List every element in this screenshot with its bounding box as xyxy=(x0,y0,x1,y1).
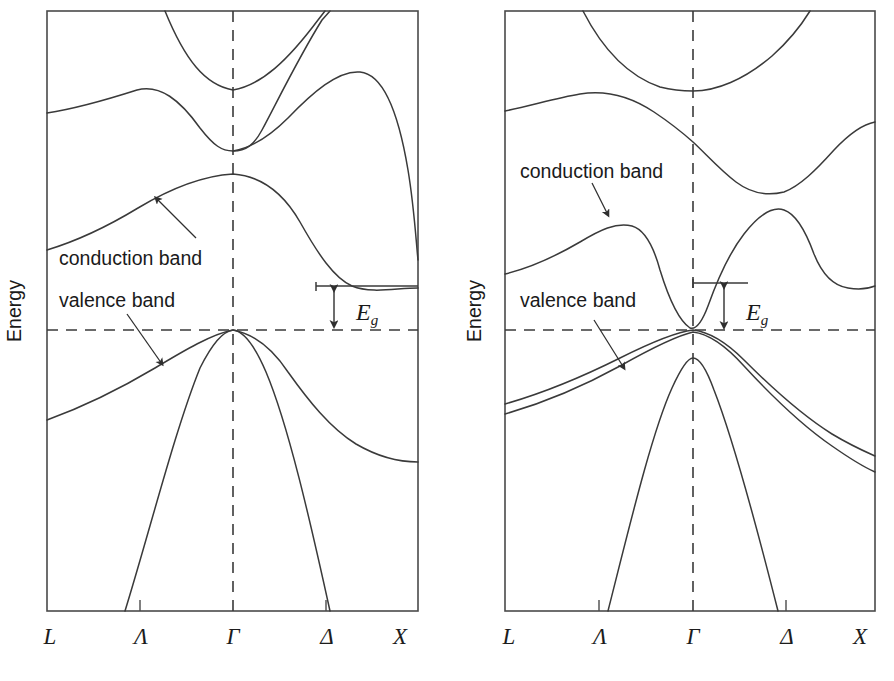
xtick-label-lambda: Λ xyxy=(591,624,607,649)
energy-gap-label: Eg xyxy=(355,299,379,328)
band-structure-figure: Eg conduction band valence band Energy L… xyxy=(0,0,894,681)
xtick-label-lambda: Λ xyxy=(132,624,148,649)
xtick-label-gamma: Γ xyxy=(225,624,240,649)
indirect-bandgap-panel: Eg conduction band valence band Energy L… xyxy=(3,11,418,649)
y-axis-label-energy: Energy xyxy=(3,280,25,342)
figure-canvas: Eg conduction band valence band Energy L… xyxy=(0,0,894,681)
conduction-band-upper-1 xyxy=(583,11,810,91)
valence-band-split-lower xyxy=(505,332,875,472)
xtick-label-l: L xyxy=(502,624,516,649)
xtick-label-x: X xyxy=(392,624,408,649)
conduction-band-upper-2 xyxy=(47,11,330,151)
xtick-label-l: L xyxy=(43,624,57,649)
conduction-band-label: conduction band xyxy=(520,160,663,182)
conduction-band-pointer-arrow xyxy=(592,183,608,215)
plot-frame xyxy=(505,11,875,611)
xtick-label-x: X xyxy=(852,624,868,649)
energy-gap-label: Eg xyxy=(745,299,769,328)
xtick-label-gamma: Γ xyxy=(685,624,700,649)
conduction-band-rising xyxy=(233,72,418,260)
valence-band-heavy xyxy=(125,330,330,611)
valence-band-label: valence band xyxy=(59,289,175,311)
xtick-label-delta: Δ xyxy=(319,624,334,649)
direct-bandgap-panel: Eg conduction band valence band Energy L… xyxy=(463,11,875,649)
conduction-band-upper-1 xyxy=(165,11,325,90)
valence-band-pointer-arrow xyxy=(127,314,162,364)
y-axis-label-energy: Energy xyxy=(463,280,485,342)
valence-band-pointer-arrow xyxy=(594,320,624,368)
xtick-label-delta: Δ xyxy=(779,624,794,649)
conduction-band-label: conduction band xyxy=(59,247,202,269)
valence-band-label: valence band xyxy=(520,289,636,311)
conduction-band-pointer-arrow xyxy=(156,198,196,238)
